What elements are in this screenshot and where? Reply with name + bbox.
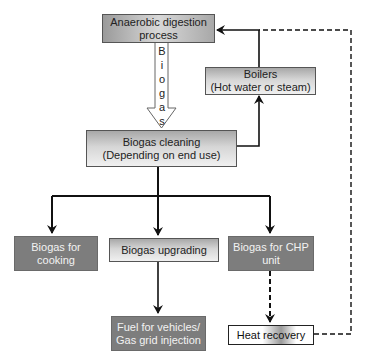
node-label: Fuel for vehicles/ xyxy=(117,321,200,334)
boilers-to-anaerobic-line xyxy=(217,30,259,67)
node-label: Anaerobic digestion xyxy=(110,16,207,29)
biogas-letter: o xyxy=(159,72,165,86)
node-fuel-vehicles: Fuel for vehicles/ Gas grid injection xyxy=(111,316,206,351)
biogas-letter: B xyxy=(158,44,165,58)
node-label: Boilers xyxy=(244,68,278,81)
node-biogas-upgrading: Biogas upgrading xyxy=(109,238,219,262)
biogas-letter: i xyxy=(161,58,163,72)
cleaning-to-boilers-line xyxy=(236,96,259,146)
biogas-letter: a xyxy=(159,100,165,114)
node-label: unit xyxy=(262,254,280,267)
node-label: Heat recovery xyxy=(237,329,305,342)
node-label: cooking xyxy=(37,254,75,267)
node-biogas-cleaning: Biogas cleaning (Depending on end use) xyxy=(86,130,237,167)
node-biogas-cooking: Biogas for cooking xyxy=(14,236,98,271)
node-biogas-chp: Biogas for CHP unit xyxy=(228,236,314,271)
node-label: Gas grid injection xyxy=(116,334,201,347)
node-label: (Depending on end use) xyxy=(102,149,220,162)
node-label: Biogas for CHP xyxy=(233,241,309,254)
node-label: Biogas upgrading xyxy=(121,244,207,257)
node-heat-recovery: Heat recovery xyxy=(228,325,314,345)
biogas-letter: g xyxy=(159,86,165,100)
connector-lines xyxy=(0,0,367,356)
node-label: Biogas cleaning xyxy=(123,136,201,149)
node-anaerobic-digestion: Anaerobic digestion process xyxy=(102,14,215,43)
biogas-arrow-label: B i o g a s xyxy=(156,44,168,128)
node-boilers: Boilers (Hot water or steam) xyxy=(205,67,316,95)
node-label: (Hot water or steam) xyxy=(210,81,310,94)
node-label: Biogas for xyxy=(31,241,81,254)
node-label: process xyxy=(139,29,178,42)
biogas-letter: s xyxy=(159,114,165,128)
